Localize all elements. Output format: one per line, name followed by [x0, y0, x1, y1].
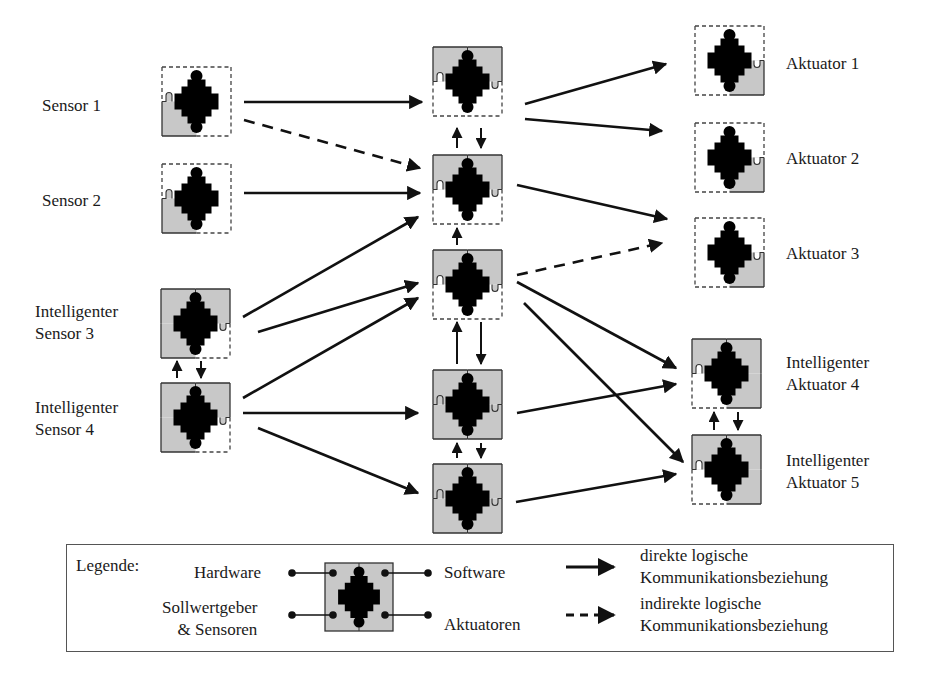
- label-line: indirekte logische: [640, 593, 828, 615]
- core-knob: [191, 70, 203, 82]
- core-knob: [462, 101, 474, 113]
- puzzle-node-s1: [162, 67, 231, 136]
- label-line: & Sensoren: [162, 619, 257, 641]
- core-knob: [462, 253, 474, 265]
- label-line: Sensor 2: [42, 190, 101, 212]
- legend-title: Legende:: [76, 555, 139, 577]
- label-aktuator-1: Aktuator 1: [786, 53, 859, 75]
- core-knob: [462, 50, 474, 62]
- label-sensor-1: Sensor 1: [42, 95, 101, 117]
- tab-notch: [162, 190, 172, 199]
- label-line: Sensor 1: [42, 95, 101, 117]
- label-aktuator-5: IntelligenterAktuator 5: [786, 450, 869, 494]
- arrow-m3-to-a5: [524, 303, 683, 462]
- core-knob: [724, 177, 736, 189]
- label-line: Sensor 4: [35, 419, 118, 441]
- label-aktuator-4: IntelligenterAktuator 4: [786, 352, 869, 396]
- puzzle-node-m2: [433, 155, 502, 224]
- label-line: Kommunikationsbeziehung: [640, 567, 828, 589]
- puzzle-node-m3: [433, 250, 502, 319]
- core-knob: [724, 80, 736, 92]
- legend-sensors-label: Sollwertgeber & Sensoren: [162, 597, 257, 641]
- label-line: Intelligenter: [786, 352, 869, 374]
- legend-actuators-label: Aktuatoren: [444, 614, 520, 636]
- core-knob: [462, 518, 474, 530]
- label-line: Intelligenter: [786, 450, 869, 472]
- arrow-s4-to-m5: [258, 428, 418, 493]
- label-line: Aktuator 2: [786, 148, 859, 170]
- arrow-m3-to-a3-dashed: [517, 243, 662, 275]
- puzzle-node-a3: [695, 218, 764, 287]
- arrow-m1-to-a2: [525, 119, 662, 131]
- label-line: Sensor 3: [35, 323, 118, 345]
- core-knob: [190, 386, 202, 398]
- label-line: Intelligenter: [35, 397, 118, 419]
- label-line: Intelligenter: [35, 301, 118, 323]
- puzzle-node-a2: [695, 123, 764, 192]
- puzzle-node-m5: [433, 464, 502, 533]
- tab-notch: [492, 190, 502, 197]
- legend-indirect-label: indirekte logische Kommunikationsbeziehu…: [640, 593, 828, 637]
- label-line: Sollwertgeber: [162, 597, 257, 619]
- core-knob: [721, 489, 733, 501]
- label-line: Aktuator 3: [786, 243, 859, 265]
- core-knob: [462, 467, 474, 479]
- puzzle-node-a5: [692, 435, 761, 504]
- label-line: Aktuator 5: [786, 472, 869, 494]
- label-aktuator-3: Aktuator 3: [786, 243, 859, 265]
- core-knob: [191, 121, 203, 133]
- label-line: Aktuator 1: [786, 53, 859, 75]
- label-sensor-2: Sensor 2: [42, 190, 101, 212]
- core-knob: [724, 126, 736, 138]
- puzzle-node-s3: [161, 289, 230, 358]
- arrow-m1-to-a1: [525, 64, 666, 104]
- label-line: Kommunikationsbeziehung: [640, 615, 828, 637]
- tab-notch: [220, 324, 230, 331]
- core-knob: [190, 292, 202, 304]
- core-knob: [724, 29, 736, 41]
- puzzle-node-s2: [162, 164, 231, 233]
- arrow-m4-to-a4: [517, 384, 676, 413]
- puzzle-node-s4: [161, 383, 230, 452]
- label-sensor-4: IntelligenterSensor 4: [35, 397, 118, 441]
- tab-notch: [162, 93, 172, 102]
- arrow-m3-to-a4: [517, 282, 676, 368]
- core-knob: [190, 437, 202, 449]
- label-sensor-3: IntelligenterSensor 3: [35, 301, 118, 345]
- tab-notch: [492, 82, 502, 89]
- core-knob: [724, 221, 736, 233]
- legend-hardware-label: Hardware: [194, 562, 261, 584]
- legend-direct-label: direkte logische Kommunikationsbeziehung: [640, 545, 828, 589]
- legend-software-label: Software: [444, 562, 505, 584]
- puzzle-node-a4: [692, 339, 761, 408]
- tab-notch: [220, 418, 230, 425]
- core-knob: [724, 272, 736, 284]
- puzzle-node-m1: [433, 47, 502, 116]
- arrow-s3-to-m3: [258, 283, 418, 332]
- core-knob: [462, 424, 474, 436]
- arrow-s4-to-m3: [243, 298, 418, 398]
- core-knob: [721, 438, 733, 450]
- tab-notch: [492, 285, 502, 292]
- arrow-s3-to-m2: [243, 217, 418, 317]
- arrow-m5-to-a5: [516, 474, 676, 502]
- arrow-s1-to-m2-dashed: [244, 120, 420, 168]
- label-aktuator-2: Aktuator 2: [786, 148, 859, 170]
- core-knob: [190, 343, 202, 355]
- core-knob: [191, 167, 203, 179]
- label-line: direkte logische: [640, 545, 828, 567]
- core-knob: [721, 342, 733, 354]
- core-knob: [462, 304, 474, 316]
- puzzle-node-m4: [433, 370, 502, 439]
- core-knob: [191, 218, 203, 230]
- puzzle-node-a1: [695, 26, 764, 95]
- core-knob: [462, 158, 474, 170]
- core-knob: [721, 393, 733, 405]
- core-knob: [462, 209, 474, 221]
- core-knob: [462, 373, 474, 385]
- label-line: Aktuator 4: [786, 374, 869, 396]
- arrow-m2-to-a3: [517, 185, 667, 219]
